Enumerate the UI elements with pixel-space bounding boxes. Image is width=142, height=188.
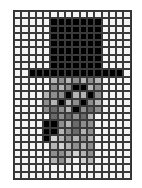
grid-cell[interactable] <box>58 91 65 98</box>
grid-cell[interactable] <box>43 84 50 91</box>
grid-cell[interactable] <box>50 33 57 40</box>
grid-cell[interactable] <box>72 62 79 69</box>
grid-cell[interactable] <box>80 69 87 76</box>
grid-cell[interactable] <box>102 150 109 157</box>
grid-cell[interactable] <box>43 55 50 62</box>
grid-cell[interactable] <box>50 99 57 106</box>
grid-cell[interactable] <box>14 120 21 127</box>
grid-cell[interactable] <box>94 47 101 54</box>
grid-cell[interactable] <box>58 106 65 113</box>
grid-cell[interactable] <box>94 84 101 91</box>
grid-cell[interactable] <box>72 91 79 98</box>
grid-cell[interactable] <box>29 99 36 106</box>
grid-cell[interactable] <box>29 120 36 127</box>
grid-cell[interactable] <box>21 150 28 157</box>
grid-cell[interactable] <box>36 142 43 149</box>
grid-cell[interactable] <box>80 77 87 84</box>
grid-cell[interactable] <box>80 55 87 62</box>
grid-cell[interactable] <box>36 135 43 142</box>
grid-cell[interactable] <box>123 172 130 179</box>
grid-cell[interactable] <box>43 99 50 106</box>
grid-cell[interactable] <box>14 40 21 47</box>
grid-cell[interactable] <box>116 120 123 127</box>
grid-cell[interactable] <box>102 99 109 106</box>
grid-cell[interactable] <box>21 47 28 54</box>
grid-cell[interactable] <box>65 11 72 18</box>
grid-cell[interactable] <box>72 18 79 25</box>
grid-cell[interactable] <box>29 113 36 120</box>
grid-cell[interactable] <box>123 150 130 157</box>
grid-cell[interactable] <box>29 106 36 113</box>
grid-cell[interactable] <box>29 128 36 135</box>
grid-cell[interactable] <box>50 150 57 157</box>
grid-cell[interactable] <box>29 77 36 84</box>
grid-cell[interactable] <box>21 77 28 84</box>
grid-cell[interactable] <box>50 77 57 84</box>
grid-cell[interactable] <box>29 84 36 91</box>
grid-cell[interactable] <box>14 150 21 157</box>
grid-cell[interactable] <box>94 99 101 106</box>
grid-cell[interactable] <box>65 120 72 127</box>
grid-cell[interactable] <box>14 91 21 98</box>
grid-cell[interactable] <box>21 128 28 135</box>
grid-cell[interactable] <box>58 26 65 33</box>
grid-cell[interactable] <box>94 55 101 62</box>
grid-cell[interactable] <box>123 99 130 106</box>
grid-cell[interactable] <box>50 128 57 135</box>
grid-cell[interactable] <box>29 69 36 76</box>
grid-cell[interactable] <box>36 26 43 33</box>
grid-cell[interactable] <box>87 91 94 98</box>
grid-cell[interactable] <box>87 18 94 25</box>
grid-cell[interactable] <box>116 142 123 149</box>
grid-cell[interactable] <box>116 77 123 84</box>
grid-cell[interactable] <box>123 106 130 113</box>
grid-cell[interactable] <box>80 62 87 69</box>
grid-cell[interactable] <box>43 113 50 120</box>
grid-cell[interactable] <box>21 99 28 106</box>
grid-cell[interactable] <box>43 164 50 171</box>
grid-cell[interactable] <box>58 33 65 40</box>
grid-cell[interactable] <box>36 164 43 171</box>
grid-cell[interactable] <box>80 142 87 149</box>
grid-cell[interactable] <box>116 62 123 69</box>
grid-cell[interactable] <box>123 62 130 69</box>
grid-cell[interactable] <box>116 157 123 164</box>
grid-cell[interactable] <box>14 33 21 40</box>
grid-cell[interactable] <box>65 47 72 54</box>
grid-cell[interactable] <box>87 47 94 54</box>
grid-cell[interactable] <box>94 120 101 127</box>
grid-cell[interactable] <box>36 128 43 135</box>
grid-cell[interactable] <box>80 84 87 91</box>
grid-cell[interactable] <box>87 157 94 164</box>
grid-cell[interactable] <box>94 106 101 113</box>
grid-cell[interactable] <box>43 33 50 40</box>
grid-cell[interactable] <box>14 172 21 179</box>
grid-cell[interactable] <box>72 150 79 157</box>
grid-cell[interactable] <box>58 142 65 149</box>
grid-cell[interactable] <box>87 172 94 179</box>
grid-cell[interactable] <box>72 113 79 120</box>
grid-cell[interactable] <box>94 11 101 18</box>
grid-cell[interactable] <box>94 26 101 33</box>
grid-cell[interactable] <box>87 84 94 91</box>
grid-cell[interactable] <box>21 91 28 98</box>
grid-cell[interactable] <box>21 142 28 149</box>
grid-cell[interactable] <box>123 33 130 40</box>
grid-cell[interactable] <box>65 172 72 179</box>
grid-cell[interactable] <box>94 157 101 164</box>
grid-cell[interactable] <box>102 18 109 25</box>
grid-cell[interactable] <box>65 106 72 113</box>
pixel-art-grid[interactable] <box>13 10 132 180</box>
grid-cell[interactable] <box>36 33 43 40</box>
grid-cell[interactable] <box>43 172 50 179</box>
grid-cell[interactable] <box>65 135 72 142</box>
grid-cell[interactable] <box>58 40 65 47</box>
grid-cell[interactable] <box>21 84 28 91</box>
grid-cell[interactable] <box>29 62 36 69</box>
grid-cell[interactable] <box>116 11 123 18</box>
grid-cell[interactable] <box>109 113 116 120</box>
grid-cell[interactable] <box>58 84 65 91</box>
grid-cell[interactable] <box>50 55 57 62</box>
grid-cell[interactable] <box>87 99 94 106</box>
grid-cell[interactable] <box>36 55 43 62</box>
